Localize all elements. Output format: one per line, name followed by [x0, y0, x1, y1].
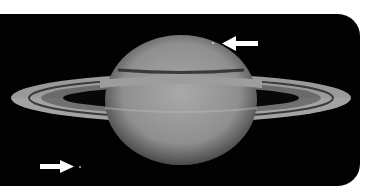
moon-feature [212, 42, 214, 44]
saturn-image [0, 0, 373, 196]
small-moon [79, 166, 81, 168]
arrow-right-icon [40, 160, 74, 173]
